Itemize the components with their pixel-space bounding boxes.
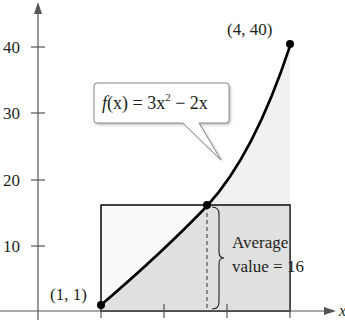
x-axis-label: x — [338, 302, 345, 319]
func-label-tail: − 2x — [171, 93, 208, 113]
y-tick-10: 10 — [3, 237, 20, 256]
y-tick-30: 30 — [3, 104, 20, 123]
average-label-line1: Average — [232, 233, 288, 252]
point-end — [286, 40, 294, 48]
y-tick-20: 20 — [3, 171, 20, 190]
func-label-body: (x) = 3x — [107, 93, 165, 114]
function-callout: f(x) = 3x2 − 2x — [94, 83, 229, 160]
svg-text:f(x) = 3x2 − 2x: f(x) = 3x2 − 2x — [102, 91, 208, 114]
point-start — [97, 301, 105, 309]
y-axis-arrow-icon — [34, 2, 42, 14]
average-label-line2: value = 16 — [232, 257, 304, 276]
shaded-area-upper — [207, 46, 290, 206]
point-start-label: (1, 1) — [50, 285, 87, 304]
point-intersection — [203, 201, 211, 209]
point-end-label: (4, 40) — [227, 20, 272, 39]
area-under-curve-chart: 40 30 20 10 x (1, 1) (4, 40) f(x) = 3x2 … — [0, 0, 345, 321]
y-tick-40: 40 — [3, 38, 20, 57]
x-axis-arrow-icon — [324, 307, 336, 315]
